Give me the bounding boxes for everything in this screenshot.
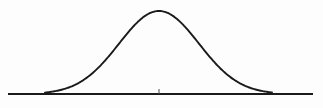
bell-curve-figure: Normal distribution bell curve above a h…	[0, 0, 323, 108]
gaussian-curve-path	[45, 11, 272, 93]
bell-curve-chart: Normal distribution bell curve above a h…	[0, 0, 323, 108]
